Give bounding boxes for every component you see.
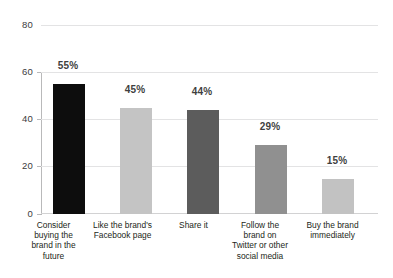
bar-chart: 80 60 40 20 0 55% 45% 44% 29% 15% Consid… [0, 0, 393, 278]
category-label-line: Follow the [222, 220, 298, 230]
category-label-like-facebook-page: Like the brand's Facebook page [86, 220, 159, 240]
category-label-line: Like the brand's [86, 220, 159, 230]
bar-share-it[interactable] [187, 110, 219, 214]
bar-value-label-2: 45% [110, 84, 160, 95]
y-tick-label-40: 40 [3, 114, 33, 124]
category-label-line: buying the [22, 230, 85, 240]
bar-value-label-3: 44% [177, 86, 227, 97]
category-label-share-it: Share it [162, 220, 225, 230]
y-tick-label-60: 60 [3, 67, 33, 77]
bar-value-label-1: 55% [43, 60, 93, 71]
bar-follow-on-twitter[interactable] [255, 145, 287, 214]
gridline-80 [41, 25, 378, 26]
plot-area [41, 25, 378, 214]
gridline-60 [41, 72, 378, 73]
category-label-line: future [22, 251, 85, 261]
bar-buy-immediately[interactable] [322, 179, 354, 214]
y-tick-label-20: 20 [3, 161, 33, 171]
y-tick-mark-0 [37, 214, 42, 215]
category-label-line: social media [222, 251, 298, 261]
bar-value-label-4: 29% [245, 121, 295, 132]
category-label-buy-immediately: Buy the brand immediately [297, 220, 368, 240]
category-label-line: Facebook page [86, 230, 159, 240]
category-label-line: Twitter or other [222, 240, 298, 250]
bar-value-label-5: 15% [312, 155, 362, 166]
category-label-line: brand in the [22, 240, 85, 250]
category-label-line: Buy the brand [297, 220, 368, 230]
category-label-consider-buying: Consider buying the brand in the future [22, 220, 85, 261]
y-tick-label-80: 80 [3, 20, 33, 30]
bar-consider-buying[interactable] [53, 84, 85, 214]
category-label-line: immediately [297, 230, 368, 240]
y-tick-label-0: 0 [3, 209, 33, 219]
category-label-follow-on-twitter: Follow the brand on Twitter or other soc… [222, 220, 298, 261]
category-label-line: brand on [222, 230, 298, 240]
category-label-line: Consider [22, 220, 85, 230]
bar-like-facebook-page[interactable] [120, 108, 152, 214]
category-label-line: Share it [162, 220, 225, 230]
